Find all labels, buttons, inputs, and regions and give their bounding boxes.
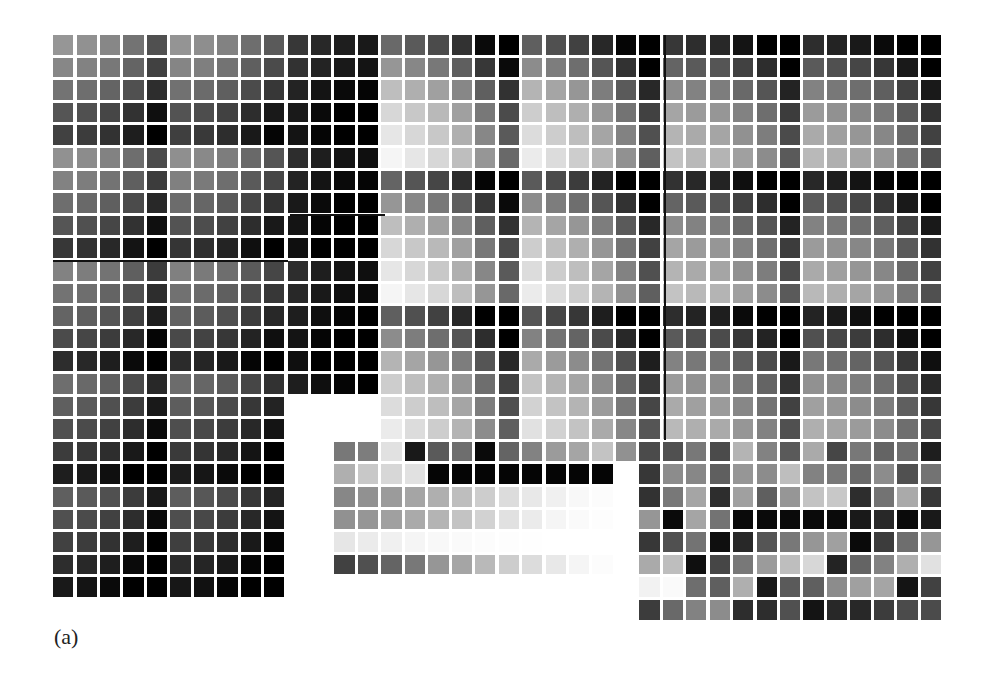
right-main-block-cell — [639, 306, 659, 326]
left-block-cell — [217, 58, 237, 78]
left-block-cell — [147, 555, 167, 575]
left-block-cell — [264, 103, 284, 123]
right-main-block-cell — [405, 261, 425, 281]
left-block-cell — [241, 284, 261, 304]
right-main-block-cell — [874, 35, 894, 55]
left-block-cell — [77, 193, 97, 213]
left-block-cell — [77, 261, 97, 281]
right-main-block-cell — [452, 125, 472, 145]
left-block-cell — [77, 374, 97, 394]
right-main-block-cell — [499, 58, 519, 78]
left-block-cell — [123, 261, 143, 281]
right-main-block-cell — [428, 148, 448, 168]
right-main-block-cell — [710, 103, 730, 123]
left-block-cell — [241, 148, 261, 168]
right-main-block-cell — [381, 58, 401, 78]
right-main-block-cell — [546, 148, 566, 168]
right-main-block-cell — [639, 261, 659, 281]
right-main-block-cell — [757, 419, 777, 439]
left-block-cell — [100, 374, 120, 394]
middle-dark-block-cell — [334, 329, 354, 349]
right-main-block-cell — [897, 238, 917, 258]
left-block-cell — [194, 510, 214, 530]
right-main-block-cell — [850, 148, 870, 168]
left-block-cell — [147, 510, 167, 530]
left-block-cell — [217, 80, 237, 100]
bottom-right-block-cell — [850, 464, 870, 484]
right-main-block-cell — [686, 125, 706, 145]
right-main-block-cell — [499, 35, 519, 55]
right-main-block-cell — [616, 374, 636, 394]
middle-dark-block-cell — [288, 80, 308, 100]
right-main-block-cell — [592, 125, 612, 145]
bottom-right-block-cell — [921, 600, 941, 620]
right-main-block-cell — [616, 397, 636, 417]
middle-dark-block-cell — [358, 148, 378, 168]
right-main-block-cell — [874, 238, 894, 258]
right-main-block-cell — [710, 148, 730, 168]
bottom-middle-block-cell — [452, 510, 472, 530]
right-main-block-cell — [921, 261, 941, 281]
right-main-block-cell — [850, 238, 870, 258]
right-main-block-cell — [499, 351, 519, 371]
right-main-block-cell — [850, 80, 870, 100]
bottom-right-block-cell — [897, 487, 917, 507]
right-main-block-cell — [827, 125, 847, 145]
bottom-middle-block-cell — [616, 442, 636, 462]
right-main-block-cell — [452, 306, 472, 326]
left-block-cell — [264, 487, 284, 507]
right-main-block-cell — [733, 284, 753, 304]
middle-dark-block-cell — [311, 261, 331, 281]
middle-dark-block-cell — [358, 58, 378, 78]
left-block-cell — [217, 148, 237, 168]
right-main-block-cell — [710, 419, 730, 439]
right-main-block-cell — [569, 125, 589, 145]
right-main-block-cell — [803, 284, 823, 304]
bottom-right-block-cell — [850, 532, 870, 552]
middle-dark-block-cell — [311, 351, 331, 371]
bottom-right-block-cell — [733, 464, 753, 484]
bottom-middle-block-cell — [428, 464, 448, 484]
left-block-cell — [194, 80, 214, 100]
right-main-block-cell — [921, 148, 941, 168]
left-block-cell — [264, 374, 284, 394]
right-main-block-cell — [405, 103, 425, 123]
middle-dark-block-cell — [358, 351, 378, 371]
right-main-block-cell — [897, 58, 917, 78]
right-main-block-cell — [780, 374, 800, 394]
right-main-block-cell — [733, 306, 753, 326]
right-main-block-cell — [452, 80, 472, 100]
left-block-cell — [170, 238, 190, 258]
right-main-block-cell — [522, 238, 542, 258]
right-main-block-cell — [827, 35, 847, 55]
bottom-right-block-cell — [921, 577, 941, 597]
right-main-block-cell — [803, 80, 823, 100]
right-main-block-cell — [522, 171, 542, 191]
right-main-block-cell — [780, 419, 800, 439]
bottom-right-block-cell — [827, 600, 847, 620]
bottom-right-block-cell — [733, 487, 753, 507]
left-block-cell — [123, 125, 143, 145]
bottom-middle-block-cell — [522, 487, 542, 507]
middle-dark-block-cell — [358, 238, 378, 258]
right-main-block-cell — [569, 148, 589, 168]
bottom-middle-block-cell — [522, 510, 542, 530]
bottom-right-block-cell — [686, 464, 706, 484]
bottom-right-block-cell — [757, 532, 777, 552]
bottom-middle-block-cell — [475, 487, 495, 507]
right-main-block-cell — [569, 351, 589, 371]
middle-dark-block-cell — [334, 125, 354, 145]
left-block-cell — [170, 58, 190, 78]
left-block-cell — [77, 80, 97, 100]
right-main-block-cell — [780, 261, 800, 281]
left-block-cell — [217, 171, 237, 191]
middle-dark-block-cell — [311, 58, 331, 78]
left-block-cell — [77, 284, 97, 304]
right-main-block-cell — [874, 171, 894, 191]
left-block-cell — [100, 216, 120, 236]
right-main-block-cell — [592, 58, 612, 78]
right-main-block-cell — [499, 148, 519, 168]
left-block-cell — [217, 510, 237, 530]
right-main-block-cell — [616, 148, 636, 168]
right-main-block-cell — [757, 216, 777, 236]
